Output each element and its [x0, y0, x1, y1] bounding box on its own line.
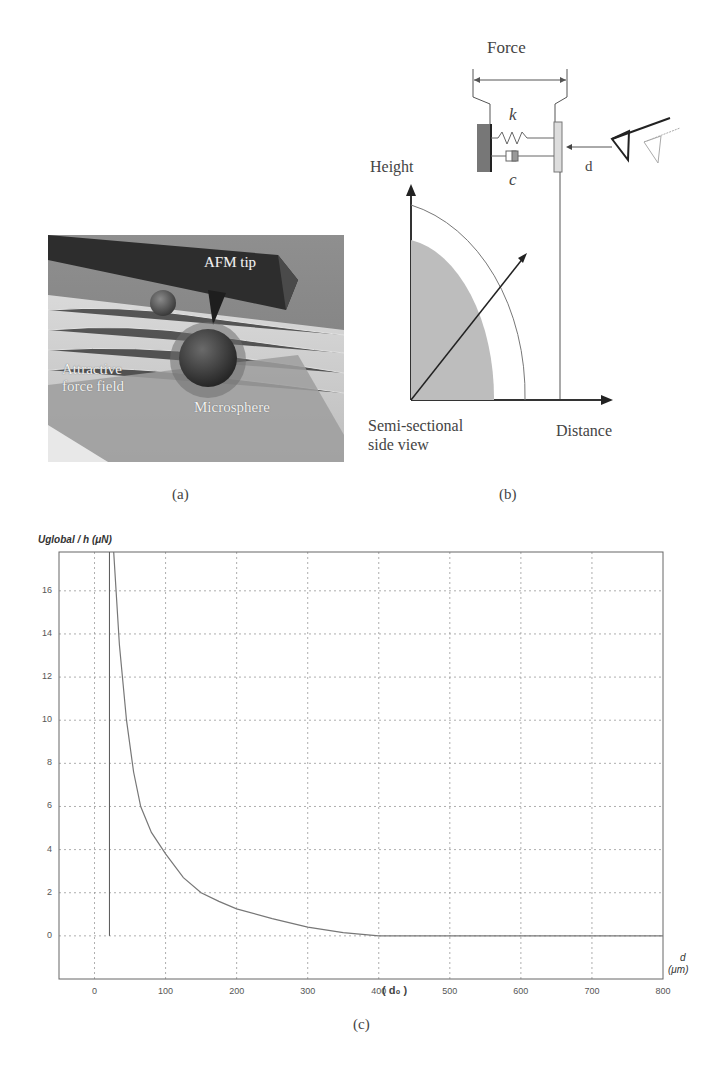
y-tick-label: 16 — [28, 585, 52, 595]
view-label-line1: Semi-sectional — [368, 417, 463, 435]
y-axis-title: Uglobal / h (μN) — [38, 534, 112, 545]
x-tick-label: 0 — [85, 986, 105, 996]
x-axis-title-line1: d — [680, 952, 686, 963]
y-tick-label: 6 — [28, 800, 52, 810]
microsphere-label: Microsphere — [194, 400, 270, 415]
spring-constant-label: k — [509, 105, 517, 125]
potential-plot — [0, 540, 728, 1020]
y-tick-label: 12 — [28, 671, 52, 681]
attractive-field-label-line2: force field — [62, 379, 124, 394]
schematic-panel: Force k c d Height Distance Semi-section… — [370, 0, 690, 480]
x-tick-label: 500 — [440, 986, 460, 996]
y-tick-label: 0 — [28, 930, 52, 940]
x-axis-title-line2: (μm) — [668, 964, 688, 975]
y-tick-label: 2 — [28, 887, 52, 897]
caption-c: (c) — [353, 1016, 370, 1033]
distance-d-label: d — [585, 158, 593, 175]
x-tick-label: 200 — [227, 986, 247, 996]
height-axis-label: Height — [370, 158, 414, 176]
x-tick-label: 700 — [582, 986, 602, 996]
potential-curve — [114, 552, 663, 936]
grid-lines — [59, 552, 663, 979]
x-tick-label: 300 — [298, 986, 318, 996]
caption-a: (a) — [172, 486, 189, 503]
force-label: Force — [487, 38, 526, 58]
y-tick-label: 8 — [28, 757, 52, 767]
afm-tip-label: AFM tip — [204, 255, 256, 270]
caption-b: (b) — [499, 486, 517, 503]
d0-annotation: ( d₀ ) — [382, 984, 407, 996]
afm-scene-illustration — [48, 235, 344, 462]
potential-chart: 0246810121416 0100200300400500600700800 … — [0, 540, 728, 1020]
y-tick-label: 10 — [28, 714, 52, 724]
damping-constant-label: c — [509, 170, 517, 190]
distance-axis-label: Distance — [556, 422, 612, 440]
attractive-field-label-line1: Attractive — [62, 362, 122, 377]
y-tick-label: 4 — [28, 844, 52, 854]
view-label-line2: side view — [368, 436, 429, 454]
x-tick-label: 800 — [653, 986, 673, 996]
spring-damper-schematic — [370, 0, 690, 480]
afm-render-panel: AFM tip Attractive force field Microsphe… — [48, 235, 344, 462]
x-tick-label: 600 — [511, 986, 531, 996]
y-tick-label: 14 — [28, 628, 52, 638]
x-tick-label: 100 — [156, 986, 176, 996]
plot-frame — [59, 552, 663, 979]
